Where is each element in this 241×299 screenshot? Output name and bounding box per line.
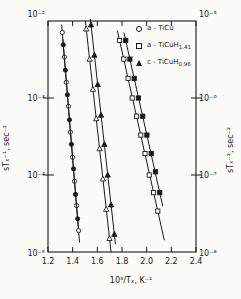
x-tick-label: 2.2 [165, 257, 178, 266]
fit-line [85, 21, 111, 252]
square-open-marker-icon [117, 38, 121, 42]
series-ticu-stx2 [61, 39, 80, 227]
legend-item-ticuh096: c - TiCuH0.96 [136, 54, 191, 71]
y_right-tick-label: 10⁻⁶ [199, 94, 217, 103]
triangle-open-marker-icon [100, 176, 105, 181]
circle-filled-marker-icon [63, 68, 67, 72]
square-filled-marker-icon [141, 114, 145, 118]
square-open-marker-icon [134, 114, 138, 118]
triangle-filled-marker-icon [95, 82, 100, 87]
square-open-marker-icon [130, 96, 134, 100]
triangle-open-marker-icon [87, 56, 92, 61]
square-filled-marker-icon [124, 38, 128, 42]
square-open-marker-icon [122, 57, 126, 61]
fit-line [63, 39, 78, 227]
square-filled-marker-icon [128, 57, 132, 61]
x-tick-label: 1.8 [116, 257, 129, 266]
circle-open-marker-icon [60, 30, 64, 34]
square-marker-icon [136, 43, 142, 49]
triangle-filled-marker-icon [108, 202, 113, 207]
triangle-open-marker-icon [90, 86, 95, 91]
x-axis-title: 10³/Tₓ, K⁻¹ [110, 276, 152, 285]
circle-filled-marker-icon [71, 167, 75, 171]
circle-open-marker-icon [76, 228, 80, 232]
square-open-marker-icon [151, 191, 155, 195]
square-filled-marker-icon [145, 133, 149, 137]
triangle-open-marker-icon [94, 116, 99, 121]
circle-filled-marker-icon [65, 93, 69, 97]
square-open-marker-icon [147, 173, 151, 177]
legend-item-label: a - TiCuH1.41 [147, 41, 191, 50]
y-left-axis-title: sTₓ⁻¹, sec⁻¹ [2, 125, 11, 171]
square-filled-marker-icon [149, 151, 153, 155]
triangle-filled-marker-icon [88, 22, 93, 27]
y_left-tick-label: 10⁻² [27, 10, 45, 19]
square-open-marker-icon [126, 76, 130, 80]
square-filled-marker-icon [132, 76, 136, 80]
circle-filled-marker-icon [69, 142, 73, 146]
y_right-tick-label: 10⁻⁵ [199, 10, 217, 19]
x-tick-label: 1.4 [66, 257, 79, 266]
legend-item-ticu: a - TiCu [136, 20, 191, 37]
y_left-tick-label: 10⁻⁵ [27, 249, 45, 258]
y_left-axis: 10⁻²10⁻³10⁻⁴10⁻⁵ [27, 10, 54, 258]
triangle-filled-marker-icon [102, 142, 107, 147]
triangle-filled-marker-icon [98, 112, 103, 117]
x-tick-label: 1.2 [42, 257, 55, 266]
y_left-tick-label: 10⁻⁴ [27, 171, 45, 180]
y_right-tick-label: 10⁻⁷ [199, 171, 217, 180]
square-open-marker-icon [156, 209, 160, 213]
legend: a - TiCu a - TiCuH1.41 c - TiCuH0.96 [136, 20, 191, 71]
circle-filled-marker-icon [61, 43, 65, 47]
triangle-marker-icon [136, 60, 142, 66]
square-open-marker-icon [139, 133, 143, 137]
series-ticuh096-stx2 [88, 19, 117, 244]
circle-filled-marker-icon [76, 217, 80, 221]
square-filled-marker-icon [158, 191, 162, 195]
y-right-axis-title: sTₓ⁻², sec⁻² [226, 127, 235, 173]
square-open-marker-icon [143, 151, 147, 155]
x-tick-label: 2.0 [140, 257, 153, 266]
x-tick-label: 1.6 [91, 257, 104, 266]
square-filled-marker-icon [136, 96, 140, 100]
y_left-tick-label: 10⁻³ [27, 94, 45, 103]
triangle-filled-marker-icon [105, 172, 110, 177]
triangle-filled-marker-icon [112, 231, 117, 236]
y_right-tick-label: 10⁻⁸ [199, 249, 217, 258]
square-filled-marker-icon [153, 170, 157, 174]
legend-item-label: c - TiCuH0.96 [147, 58, 191, 67]
y_right-axis: 10⁻⁵10⁻⁶10⁻⁷10⁻⁸ [191, 10, 217, 258]
circle-filled-marker-icon [67, 118, 71, 122]
triangle-filled-marker-icon [92, 52, 97, 57]
series-ticuh096-stx1 [84, 21, 113, 252]
figure-container: 1.21.41.61.82.02.22.410⁻²10⁻³10⁻⁴10⁻⁵10⁻… [0, 0, 241, 299]
circle-filled-marker-icon [73, 192, 77, 196]
legend-item-label: a - TiCu [147, 24, 174, 33]
chart-canvas: 1.21.41.61.82.02.22.410⁻²10⁻³10⁻⁴10⁻⁵10⁻… [0, 0, 241, 299]
legend-item-ticuh141: a - TiCuH1.41 [136, 37, 191, 54]
circle-marker-icon [136, 26, 142, 32]
x-tick-label: 2.4 [190, 257, 203, 266]
